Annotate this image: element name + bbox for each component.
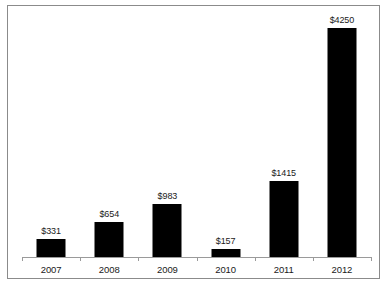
bar-chart-figure: $331$654$983$157$1415$4250 2007200820092… — [0, 0, 388, 287]
bar-value-label-2007: $331 — [41, 226, 61, 236]
bar-value-label-2012: $4250 — [330, 15, 355, 25]
axis-tick-0 — [22, 257, 23, 261]
bar-value-label-2008: $654 — [99, 209, 119, 219]
axis-tick-4 — [255, 257, 256, 261]
bar-2008 — [95, 222, 124, 257]
bar-value-label-2011: $1415 — [271, 168, 296, 178]
bar-group-2012: $4250 — [313, 10, 371, 257]
bar-2012 — [327, 28, 356, 257]
bar-group-2011: $1415 — [255, 10, 313, 257]
x-tick-label-2009: 2009 — [138, 264, 196, 275]
x-axis-category-labels: 200720082009201020112012 — [22, 264, 371, 278]
axis-tick-3 — [197, 257, 198, 261]
bar-group-2009: $983 — [138, 10, 196, 257]
bar-group-2008: $654 — [80, 10, 138, 257]
axis-tick-6 — [371, 257, 372, 261]
x-tick-label-2011: 2011 — [255, 264, 313, 275]
axis-tick-5 — [313, 257, 314, 261]
x-tick-label-2008: 2008 — [80, 264, 138, 275]
axis-tick-2 — [138, 257, 139, 261]
bar-2010 — [211, 249, 240, 257]
bar-2011 — [269, 181, 298, 257]
x-tick-label-2007: 2007 — [22, 264, 80, 275]
x-tick-label-2010: 2010 — [197, 264, 255, 275]
bar-group-2007: $331 — [22, 10, 80, 257]
bar-2007 — [37, 239, 66, 257]
bars-layer: $331$654$983$157$1415$4250 — [22, 10, 371, 257]
x-tick-label-2012: 2012 — [313, 264, 371, 275]
bar-value-label-2010: $157 — [216, 236, 236, 246]
bar-value-label-2009: $983 — [158, 191, 178, 201]
axis-tick-1 — [80, 257, 81, 261]
bar-2009 — [153, 204, 182, 257]
bar-group-2010: $157 — [197, 10, 255, 257]
